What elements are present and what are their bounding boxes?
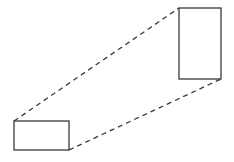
dashed-connector-top	[14, 8, 179, 121]
dashed-connector-bottom	[69, 79, 221, 150]
large-rectangle	[179, 8, 221, 79]
diagram-canvas	[0, 0, 234, 162]
small-rectangle	[14, 121, 69, 150]
